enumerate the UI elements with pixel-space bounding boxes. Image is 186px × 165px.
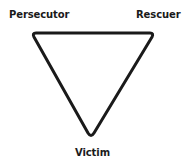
- drama-triangle-diagram: Persecutor Rescuer Victim: [0, 0, 186, 165]
- persecutor-label: Persecutor: [9, 9, 69, 21]
- inverted-triangle-shape: [0, 0, 186, 165]
- victim-label: Victim: [75, 147, 110, 159]
- rescuer-label: Rescuer: [136, 9, 181, 21]
